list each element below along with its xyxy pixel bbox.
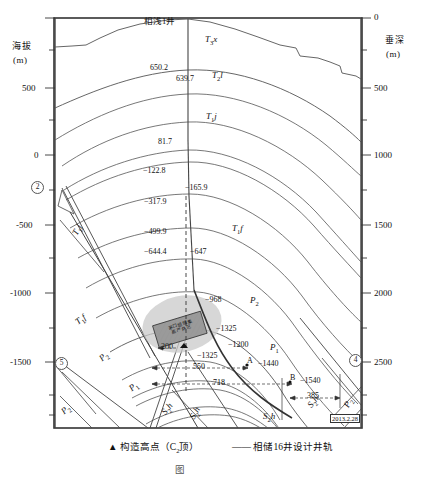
depth-1325-b: −1325 (197, 352, 218, 360)
legend-well-design-text: 相储16井设计井轨 (253, 442, 333, 452)
figure-caption: 图 (175, 466, 185, 476)
formation-t1j: T1j (206, 112, 217, 123)
depth-1540: −1540 (300, 377, 321, 385)
left-axis-unit: (m) (13, 56, 28, 65)
legend-item-structure-high: ▲ 构造高点（C2顶） (108, 443, 199, 454)
left-tick-m1500: -1500 (10, 358, 31, 367)
formation-s2h-bottom: S2h (263, 412, 275, 423)
left-tick-m1000: -1000 (10, 289, 31, 298)
depth-122-8: −122.8 (143, 167, 166, 175)
marker-b-label: B (290, 374, 295, 382)
left-axis-title: 海拔 (12, 42, 31, 51)
right-tick-1000: 1000 (374, 151, 392, 160)
depth-1325: −1325 (216, 325, 237, 333)
fault-badge-4[interactable]: 4 (349, 354, 362, 367)
right-tick-2000: 2000 (374, 289, 392, 298)
formation-t1f: T1f (232, 224, 243, 235)
depth-644-4: −644.4 (144, 248, 167, 256)
fault-badge-2[interactable]: 2 (31, 181, 44, 194)
plot-frame (54, 18, 362, 428)
dim-550: 550 (193, 363, 205, 371)
depth-165-9: −165.9 (185, 184, 208, 192)
legend-structure-high-end: 顶） (179, 442, 199, 452)
depth-650-2: 650.2 (150, 64, 168, 72)
depth-1200: −1200 (228, 341, 249, 349)
left-tick-m500: -500 (16, 221, 33, 230)
well-shallow-1-label: 相浅1井 (144, 17, 175, 26)
legend-item-well-design: —— 相储16井设计井轨 (232, 443, 333, 453)
legend-line-icon: —— (232, 442, 251, 452)
fault-badge-5[interactable]: 5 (55, 357, 68, 370)
legend-structure-high-text: 构造高点（C (120, 442, 176, 452)
date-stamp: 2013.2.28 (330, 414, 360, 423)
dim-200: 200 (161, 343, 173, 351)
depth-1440: −1440 (258, 360, 279, 368)
formation-t2l: T2l (212, 71, 223, 82)
depth-647: −647 (190, 248, 207, 256)
formation-p2: P2 (250, 296, 259, 307)
marker-a-label: A (247, 357, 253, 365)
legend-triangle-icon: ▲ (108, 442, 117, 452)
formation-p1: P1 (270, 343, 279, 354)
right-axis-unit: (m) (386, 50, 401, 59)
right-axis-title: 垂深 (385, 36, 404, 45)
figure-root: 海拔 (m) 500 0 -500 -1000 -1500 0 垂深 (m) 5… (0, 0, 421, 481)
dim-718: 718 (213, 379, 225, 387)
left-tick-500: 500 (22, 84, 36, 93)
right-tick-1500: 1500 (374, 221, 392, 230)
depth-81-7: 81.7 (158, 138, 172, 146)
dim-385: 385 (307, 392, 319, 400)
depth-499-9: −499.9 (144, 228, 167, 236)
depth-317-9: −317.9 (144, 198, 167, 206)
right-tick-0: 0 (374, 13, 379, 22)
right-tick-2500: 2500 (374, 358, 392, 367)
depth-968: −968 (205, 296, 222, 304)
formation-t3x: T3x (205, 35, 217, 46)
right-tick-500: 500 (374, 84, 388, 93)
left-tick-0: 0 (34, 151, 39, 160)
depth-639-7: 639.7 (176, 75, 194, 83)
